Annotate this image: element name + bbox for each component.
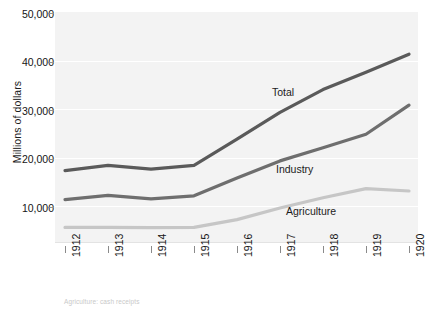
series-line-agriculture: [65, 189, 409, 228]
series-line-industry: [65, 105, 409, 200]
series-label-industry: Industry: [276, 163, 313, 175]
series-label-total: Total: [272, 86, 294, 98]
series-line-total: [65, 54, 409, 170]
chart-footnote: Agriculture: cash receipts: [64, 298, 140, 305]
series-label-agriculture: Agriculture: [286, 205, 336, 217]
